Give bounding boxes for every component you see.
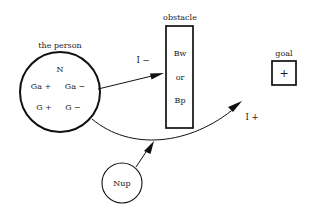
node-nup[interactable]: Nup (102, 163, 142, 203)
node-goal[interactable]: goal + (272, 49, 296, 85)
nup-label: Nup (113, 179, 130, 188)
diagram-canvas: the person N Ga + Ga − G + G − obstacle … (0, 0, 312, 213)
node-obstacle[interactable]: obstacle Bw or Bp (163, 13, 197, 128)
person-circle-shape (20, 52, 100, 132)
person-label-g-minus: G − (65, 103, 81, 112)
goal-label-plus: + (279, 67, 288, 80)
obstacle-caption: obstacle (163, 13, 197, 22)
obstacle-label-bp: Bp (175, 96, 186, 105)
obstacle-label-or: or (176, 73, 185, 82)
person-label-n: N (57, 65, 64, 74)
obstacle-label-bw: Bw (174, 49, 187, 58)
node-person[interactable]: the person N Ga + Ga − G + G − (20, 41, 100, 132)
person-label-ga-plus: Ga + (31, 82, 51, 91)
goal-caption: goal (275, 49, 293, 58)
edge-person-to-obstacle[interactable]: I − (98, 55, 164, 89)
edge-person-goal-arrowhead (228, 101, 242, 112)
person-label-ga-minus: Ga − (65, 82, 85, 91)
diagram-svg: the person N Ga + Ga − G + G − obstacle … (0, 0, 312, 213)
edge-label-i-minus: I − (136, 55, 149, 65)
edge-person-obstacle-line (98, 75, 156, 89)
person-caption: the person (38, 41, 81, 50)
edge-label-i-plus: I + (245, 112, 258, 122)
edge-person-goal-curve (92, 107, 236, 140)
edge-person-obstacle-arrowhead (150, 73, 164, 80)
edge-nup-to-path[interactable] (136, 141, 154, 167)
person-label-g-plus: G + (36, 103, 52, 112)
